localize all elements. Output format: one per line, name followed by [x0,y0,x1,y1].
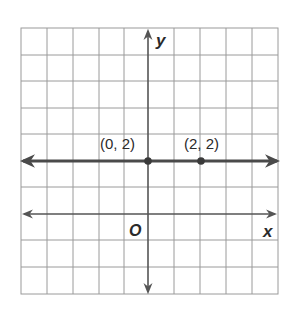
y-axis-label: y [155,31,167,50]
x-axis-label: x [262,222,274,241]
point-0-2 [144,157,152,165]
origin-label: O [129,222,142,239]
point-0-2-label: (0, 2) [100,135,135,152]
coordinate-graph: (0, 2) (2, 2) y x O [0,0,291,318]
point-2-2-label: (2, 2) [184,135,219,152]
point-2-2 [197,157,205,165]
